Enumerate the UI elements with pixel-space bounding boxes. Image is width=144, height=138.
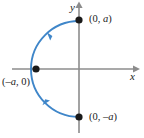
figure-container: y x (0, a) (–a, 0) (0, –a) [0,0,144,138]
point-bottom-label-pre: (0, – [89,111,108,122]
point-left-label-post: , 0) [16,76,30,87]
point-bottom-label-post: ) [114,111,118,122]
arrow-upper-icon [45,31,54,40]
point-left-label-pre: (– [2,76,11,87]
point-left-marker [32,65,39,72]
point-left-label: (–a, 0) [2,77,30,88]
x-axis-label: x [130,71,135,82]
y-axis-arrowhead-icon [75,2,82,9]
y-axis-label: y [70,2,75,13]
point-top-label-pre: (0, [89,13,103,24]
point-top-label: (0, a) [89,14,112,25]
coordinate-plane-figure [0,0,144,138]
point-bottom-marker [75,113,82,120]
point-bottom-label: (0, –a) [89,112,117,123]
point-top-marker [75,16,82,23]
point-top-label-post: ) [108,13,112,24]
